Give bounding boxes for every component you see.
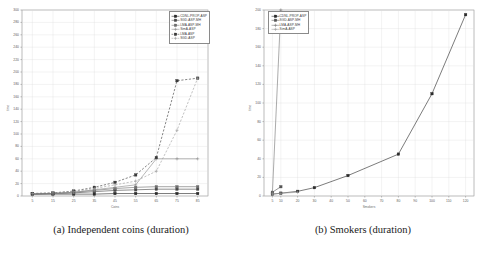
- figure-sheet: CDNL-PROP-ASPSGD-ASP-MHLMA-ASP-MHSimA-AS…: [0, 0, 484, 260]
- y-axis-tick-label: 100: [0, 132, 19, 136]
- y-axis-tick-label: 140: [242, 64, 261, 68]
- legend-item[interactable]: SimA-ASP: [271, 27, 307, 32]
- x-axis-title: Coins: [22, 205, 208, 209]
- x-axis-tick-label: 55: [130, 199, 142, 203]
- x-axis-tick-label: 25: [68, 199, 80, 203]
- y-axis-tick-label: 300: [0, 8, 19, 12]
- y-axis-tick-label: 40: [242, 157, 261, 161]
- x-axis-tick-label: 15: [47, 199, 59, 203]
- y-axis-tick-label: 20: [0, 182, 19, 186]
- x-axis-title: Smokers: [264, 205, 474, 209]
- legend-label: SGD-ASP: [180, 36, 195, 41]
- x-axis-tick-label: 75: [171, 199, 183, 203]
- y-axis-tick-label: 200: [242, 8, 261, 12]
- y-axis-tick-label: 80: [242, 120, 261, 124]
- x-axis-tick-label: 80: [392, 199, 404, 203]
- y-axis-tick-label: 180: [0, 82, 19, 86]
- y-axis-tick-label: 160: [242, 45, 261, 49]
- x-axis-tick-label: 60: [359, 199, 371, 203]
- y-axis-tick-label: 120: [242, 82, 261, 86]
- chart-b-legend: CDNL-PROP-ASPSGD-ASP-MHLMA-ASP-MHSimA-AS…: [268, 11, 309, 34]
- y-axis-tick-label: 280: [0, 20, 19, 24]
- y-axis-title: time: [6, 105, 10, 111]
- y-axis-tick-label: 120: [0, 120, 19, 124]
- y-axis-tick-label: 260: [0, 33, 19, 37]
- x-axis-tick-label: 40: [325, 199, 337, 203]
- legend-item[interactable]: SGD-ASP: [171, 36, 207, 41]
- legend-label: SimA-ASP: [280, 27, 295, 32]
- y-axis-tick-label: 20: [242, 175, 261, 179]
- y-axis-tick-label: 0: [242, 194, 261, 198]
- chart-a-legend: CDNL-PROP-ASPSGD-ASP-MHLMA-ASP-MHSimA-AS…: [169, 11, 210, 44]
- y-axis-tick-label: 80: [0, 144, 19, 148]
- y-axis-tick-label: 180: [242, 27, 261, 31]
- legend-plus-marker-icon: [271, 27, 280, 32]
- y-axis-tick-label: 60: [0, 157, 19, 161]
- x-axis-tick-label: 45: [109, 199, 121, 203]
- x-axis-tick-label: 70: [376, 199, 388, 203]
- chart-panel-independent-coins: CDNL-PROP-ASPSGD-ASP-MHLMA-ASP-MHSimA-AS…: [0, 0, 242, 218]
- x-axis-tick-label: 90: [409, 199, 421, 203]
- x-axis-tick-label: 110: [443, 199, 455, 203]
- y-axis-tick-label: 0: [0, 194, 19, 198]
- x-axis-tick-label: 20: [292, 199, 304, 203]
- y-axis-tick-label: 240: [0, 45, 19, 49]
- y-axis-tick-label: 60: [242, 138, 261, 142]
- x-axis-tick-label: 100: [426, 199, 438, 203]
- y-axis-tick-label: 200: [0, 70, 19, 74]
- x-axis-tick-label: 5: [26, 199, 38, 203]
- y-axis-tick-label: 40: [0, 169, 19, 173]
- legend-plus-marker-icon: [171, 36, 180, 41]
- y-axis-title: time: [248, 105, 252, 111]
- chart-b-caption: (b) Smokers (duration): [242, 224, 484, 235]
- x-axis-tick-label: 50: [342, 199, 354, 203]
- x-axis-tick-label: 35: [88, 199, 100, 203]
- x-axis-tick-label: 30: [308, 199, 320, 203]
- x-axis-tick-label: 10: [275, 199, 287, 203]
- x-axis-tick-label: 65: [150, 199, 162, 203]
- y-axis-tick-label: 220: [0, 58, 19, 62]
- chart-a-caption: (a) Independent coins (duration): [0, 224, 242, 235]
- x-axis-tick-label: 120: [460, 199, 472, 203]
- x-axis-tick-label: 85: [192, 199, 204, 203]
- chart-panel-smokers: CDNL-PROP-ASPSGD-ASP-MHLMA-ASP-MHSimA-AS…: [242, 0, 484, 218]
- y-axis-tick-label: 160: [0, 95, 19, 99]
